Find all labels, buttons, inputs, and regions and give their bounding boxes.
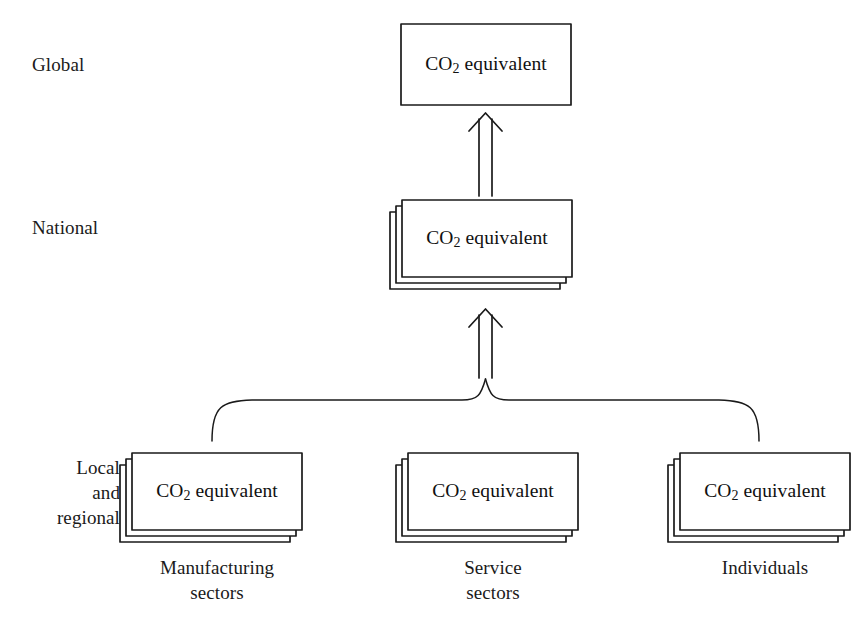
brace-local-aggregation [212,379,759,441]
node-label-national: CO2 equivalent [402,227,572,249]
node-label-manufacturing: CO2 equivalent [132,480,302,502]
caption-manufacturing: Manufacturing sectors [122,555,312,605]
node-label-global: CO2 equivalent [401,53,571,75]
node-label-individuals: CO2 equivalent [680,480,850,502]
node-national-text-prefix: CO [426,227,453,248]
tier-label-national: National [32,215,140,240]
node-service-text-suffix: equivalent [467,480,554,501]
arrow-national-to-global [469,113,502,196]
node-national-text-sub: 2 [453,234,460,250]
node-manufacturing-text-suffix: equivalent [191,480,278,501]
tier-label-local-and-regional: Local and regional [20,455,120,530]
node-individuals-text-suffix: equivalent [739,480,826,501]
node-manufacturing-text-sub: 2 [183,487,190,503]
node-label-service: CO2 equivalent [408,480,578,502]
node-global-text-suffix: equivalent [460,53,547,74]
node-national-text-suffix: equivalent [461,227,548,248]
node-individuals-text-prefix: CO [704,480,731,501]
node-global-text-prefix: CO [425,53,452,74]
caption-service: Service sectors [398,555,588,605]
node-global-text-sub: 2 [452,60,459,76]
tier-label-global: Global [32,52,140,77]
node-individuals-text-sub: 2 [731,487,738,503]
node-service-text-prefix: CO [432,480,459,501]
diagram-vector-layer [0,0,868,637]
caption-individuals: Individuals [670,555,860,580]
diagram-canvas: Global National Local and regional CO2 e… [0,0,868,637]
node-manufacturing-text-prefix: CO [156,480,183,501]
node-service-text-sub: 2 [459,487,466,503]
arrow-local-to-national [469,309,502,378]
